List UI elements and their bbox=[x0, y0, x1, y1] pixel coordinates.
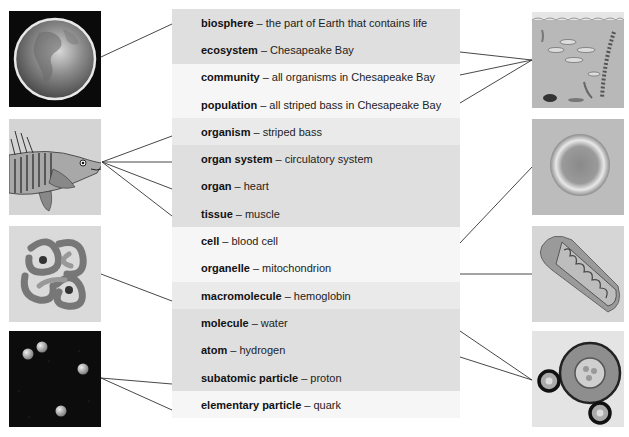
level-example: hemoglobin bbox=[294, 290, 351, 302]
hemoglobin-image bbox=[9, 226, 101, 322]
fish-image bbox=[9, 119, 101, 215]
separator: – bbox=[276, 153, 282, 165]
separator: – bbox=[236, 208, 242, 220]
level-example: all organisms in Chesapeake Bay bbox=[272, 71, 435, 83]
separator: – bbox=[235, 180, 241, 192]
level-row-organelle: organelle – mitochondrion bbox=[172, 255, 460, 282]
level-row-community: community – all organisms in Chesapeake … bbox=[172, 64, 460, 91]
level-term: macromolecule bbox=[201, 290, 282, 302]
level-example: blood cell bbox=[231, 235, 277, 247]
separator: – bbox=[261, 44, 267, 56]
bay-ecosystem-icon bbox=[532, 12, 624, 108]
separator: – bbox=[252, 317, 258, 329]
connector-biosphere bbox=[101, 24, 172, 57]
level-term: molecule bbox=[201, 317, 249, 329]
level-row-cell: cell – blood cell bbox=[172, 227, 460, 254]
level-example: the part of Earth that contains life bbox=[266, 17, 427, 29]
level-term: elementary particle bbox=[201, 399, 301, 411]
level-example: all striped bass in Chesapeake Bay bbox=[269, 99, 441, 111]
level-example: mitochondrion bbox=[262, 262, 331, 274]
level-term: atom bbox=[201, 344, 227, 356]
level-row-biosphere: biosphere – the part of Earth that conta… bbox=[172, 9, 460, 36]
separator: – bbox=[222, 235, 228, 247]
level-term: tissue bbox=[201, 208, 233, 220]
level-row-tissue: tissue – muscle bbox=[172, 200, 460, 227]
level-term: organ system bbox=[201, 153, 273, 165]
level-row-atom: atom – hydrogen bbox=[172, 337, 460, 364]
separator: – bbox=[304, 399, 310, 411]
separator: – bbox=[253, 262, 259, 274]
level-example: proton bbox=[310, 372, 341, 384]
level-example: striped bass bbox=[263, 126, 322, 138]
water-molecule-icon bbox=[532, 331, 624, 427]
levels-table: biosphere – the part of Earth that conta… bbox=[172, 9, 460, 418]
level-row-organ: organ – heart bbox=[172, 173, 460, 200]
level-term: biosphere bbox=[201, 17, 254, 29]
level-example: quark bbox=[313, 399, 341, 411]
bay-image bbox=[532, 12, 624, 108]
level-example: hydrogen bbox=[239, 344, 285, 356]
level-term: ecosystem bbox=[201, 44, 258, 56]
level-example: heart bbox=[244, 180, 269, 192]
level-term: cell bbox=[201, 235, 219, 247]
level-term: organelle bbox=[201, 262, 250, 274]
level-example: water bbox=[261, 317, 288, 329]
level-row-organ-system: organ system – circulatory system bbox=[172, 145, 460, 172]
separator: – bbox=[285, 290, 291, 302]
mitochondrion-icon bbox=[532, 226, 624, 322]
earth-image bbox=[9, 11, 101, 107]
level-example: Chesapeake Bay bbox=[270, 44, 354, 56]
level-example: muscle bbox=[245, 208, 280, 220]
blood-cell-image bbox=[532, 119, 624, 215]
separator: – bbox=[260, 99, 266, 111]
level-row-subatomic-particle: subatomic particle – proton bbox=[172, 364, 460, 391]
level-example: circulatory system bbox=[285, 153, 373, 165]
level-row-molecule: molecule – water bbox=[172, 309, 460, 336]
level-row-organism: organism – striped bass bbox=[172, 118, 460, 145]
level-row-macromolecule: macromolecule – hemoglobin bbox=[172, 282, 460, 309]
separator: – bbox=[257, 17, 263, 29]
level-term: community bbox=[201, 71, 260, 83]
level-row-elementary-particle: elementary particle – quark bbox=[172, 391, 460, 418]
particles-image bbox=[9, 331, 101, 427]
hemoglobin-icon bbox=[9, 226, 101, 322]
level-term: subatomic particle bbox=[201, 372, 298, 384]
separator: – bbox=[254, 126, 260, 138]
fish-icon bbox=[9, 119, 101, 215]
blood-cell-icon bbox=[532, 119, 624, 215]
level-term: organ bbox=[201, 180, 232, 192]
level-term: organism bbox=[201, 126, 251, 138]
separator: – bbox=[301, 372, 307, 384]
separator: – bbox=[230, 344, 236, 356]
particles-icon bbox=[9, 331, 101, 427]
level-term: population bbox=[201, 99, 257, 111]
mitochondrion-image bbox=[532, 226, 624, 322]
separator: – bbox=[263, 71, 269, 83]
level-row-population: population – all striped bass in Chesape… bbox=[172, 91, 460, 118]
atom-image bbox=[532, 331, 624, 427]
level-row-ecosystem: ecosystem – Chesapeake Bay bbox=[172, 36, 460, 63]
earth-icon bbox=[9, 11, 101, 107]
